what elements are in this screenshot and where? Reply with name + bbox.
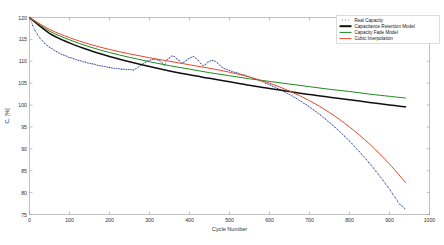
y-tick-label: 80 — [21, 190, 27, 196]
y-tick-label: 75 — [21, 212, 27, 218]
legend-marker-dot — [345, 20, 346, 21]
y-tick-label: 115 — [19, 36, 27, 42]
legend-label: Real Capacity — [355, 18, 384, 23]
y-label-unit: [%] — [4, 108, 10, 118]
x-tick-label: 400 — [185, 217, 194, 223]
legend-marker-dot — [342, 20, 343, 21]
chart-canvas: 01002003004005006007008009001000 7580859… — [0, 0, 444, 245]
legend-label: Capacity Fade Model — [355, 30, 398, 35]
y-tick-label: 100 — [18, 102, 27, 108]
x-tick-label: 200 — [105, 217, 114, 223]
x-tick-label: 300 — [145, 217, 154, 223]
y-tick-label: 120 — [18, 15, 27, 21]
x-tick-label: 900 — [385, 217, 394, 223]
chart-legend: Real CapacityCapacitance Retention Model… — [337, 16, 440, 44]
data-point — [404, 208, 405, 209]
figure-container: 01002003004005006007008009001000 7580859… — [0, 0, 444, 245]
x-tick-label: 600 — [265, 217, 274, 223]
y-tick-label: 95 — [21, 124, 27, 130]
x-tick-label: 800 — [345, 217, 354, 223]
legend-label: Capacitance Retention Model — [355, 24, 415, 29]
y-tick-label: 105 — [18, 80, 27, 86]
x-tick-label: 700 — [305, 217, 314, 223]
y-tick-label: 90 — [21, 146, 27, 152]
y-tick-label: 110 — [19, 58, 27, 64]
x-axis-label: Cycle Number — [212, 226, 248, 232]
x-tick-label: 500 — [225, 217, 234, 223]
x-tick-label: 0 — [28, 217, 31, 223]
y-tick-label: 85 — [21, 168, 27, 174]
legend-marker-dot — [348, 20, 349, 21]
legend-label: Cubic Interpolation — [355, 36, 394, 41]
x-tick-label: 1000 — [424, 217, 436, 223]
x-tick-label: 100 — [65, 217, 74, 223]
